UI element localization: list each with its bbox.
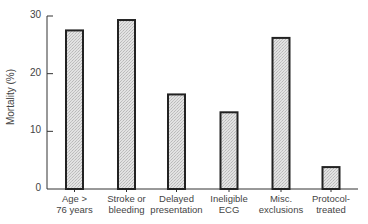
- x-tick-label: Protocol- treated: [301, 193, 361, 215]
- x-tick-label: Age > 76 years: [45, 193, 105, 215]
- x-tick-label: Ineligible ECG: [199, 193, 259, 215]
- axes: [47, 16, 358, 192]
- plot-area: [0, 0, 368, 224]
- y-tick-label: 10: [21, 124, 41, 135]
- bars: [66, 20, 340, 189]
- bar: [66, 30, 83, 189]
- y-axis-label: Mortality (%): [5, 69, 16, 125]
- x-tick-label: Delayed presentation: [147, 193, 207, 215]
- bar: [221, 112, 238, 189]
- bar: [118, 20, 135, 189]
- mortality-bar-chart: Mortality (%) 0102030 Age > 76 yearsStro…: [0, 0, 368, 224]
- bar: [273, 38, 290, 189]
- y-tick-label: 20: [21, 67, 41, 78]
- bar: [168, 94, 185, 189]
- bar: [323, 167, 340, 189]
- y-tick-label: 0: [21, 182, 41, 193]
- y-tick-label: 30: [21, 9, 41, 20]
